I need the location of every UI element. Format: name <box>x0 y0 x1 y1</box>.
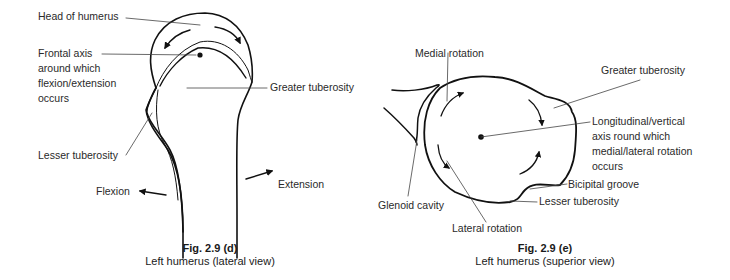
label-longitudinal-axis-2: axis round which <box>592 129 670 144</box>
humerus-lateral-drawing <box>102 13 272 258</box>
caption-title-d: Fig. 2.9 (d) <box>90 242 330 255</box>
label-lesser-tuberosity-d: Lesser tuberosity <box>38 148 118 163</box>
label-head-of-humerus: Head of humerus <box>38 9 119 24</box>
label-greater-tuberosity-e: Greater tuberosity <box>601 63 685 78</box>
label-greater-tuberosity-d: Greater tuberosity <box>270 80 354 95</box>
label-extension: Extension <box>278 177 324 192</box>
caption-subtitle-d: Left humerus (lateral view) <box>145 255 275 267</box>
label-frontal-axis-3: flexion/extension <box>38 76 116 91</box>
label-longitudinal-axis-4: occurs <box>592 159 623 174</box>
caption-fig-d: Fig. 2.9 (d) Left humerus (lateral view) <box>90 242 330 268</box>
label-medial-rotation: Medial rotation <box>415 46 484 61</box>
label-flexion: Flexion <box>96 184 130 199</box>
label-bicipital-groove: Bicipital groove <box>568 177 639 192</box>
caption-title-e: Fig. 2.9 (e) <box>425 242 665 255</box>
label-lateral-rotation: Lateral rotation <box>452 221 522 236</box>
label-longitudinal-axis-1: Longitudinal/vertical <box>592 114 685 129</box>
label-longitudinal-axis-3: medial/lateral rotation <box>592 144 692 159</box>
label-frontal-axis-2: around which <box>38 61 100 76</box>
label-lesser-tuberosity-e: Lesser tuberosity <box>539 194 619 209</box>
caption-subtitle-e: Left humerus (superior view) <box>475 255 614 267</box>
label-glenoid-cavity: Glenoid cavity <box>378 198 444 213</box>
caption-fig-e: Fig. 2.9 (e) Left humerus (superior view… <box>425 242 665 268</box>
label-frontal-axis-4: occurs <box>38 91 69 106</box>
label-frontal-axis-1: Frontal axis <box>38 46 92 61</box>
